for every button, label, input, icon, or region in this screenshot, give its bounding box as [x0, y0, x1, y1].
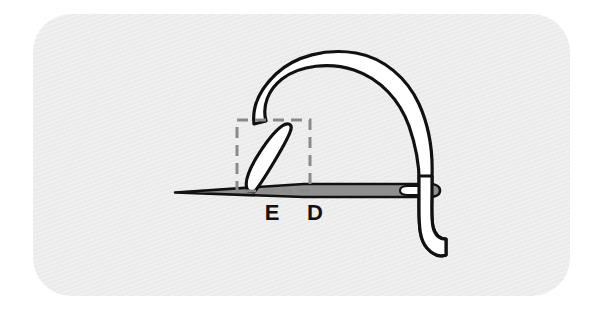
sewing-stitch-illustration: E D Buttonhole stitch sewing diagram nee… — [0, 0, 598, 319]
illustration-canvas: E D — [0, 0, 598, 319]
label-e: E — [265, 200, 280, 225]
label-d: D — [307, 200, 323, 225]
fabric-swatch — [33, 14, 570, 296]
fabric-swatch-surface — [33, 14, 570, 296]
